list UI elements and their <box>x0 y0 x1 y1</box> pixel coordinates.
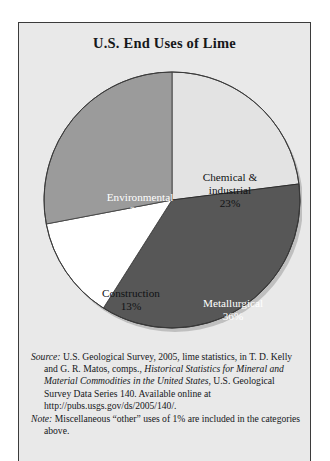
pie-chart-svg <box>29 59 302 344</box>
misc-note: Note: Miscellaneous “other” uses of 1% a… <box>31 413 303 437</box>
misc-note-lead: Note: <box>31 413 52 424</box>
figure-notes: Source: U.S. Geological Survey, 2005, li… <box>31 351 303 437</box>
source-note: Source: U.S. Geological Survey, 2005, li… <box>31 351 303 412</box>
pie-chart: Chemical & industrial 23% Environmental … <box>29 59 302 344</box>
pie-slice-chemical-industrial[interactable] <box>172 72 299 200</box>
page-title: U.S. End Uses of Lime <box>19 35 310 52</box>
source-note-lead: Source: <box>31 351 60 362</box>
pie-slice-environmental[interactable] <box>44 72 172 224</box>
figure-panel: U.S. End Uses of Lime Chemical & industr… <box>18 22 311 461</box>
misc-note-text: Miscellaneous “other” uses of 1% are inc… <box>44 413 300 436</box>
